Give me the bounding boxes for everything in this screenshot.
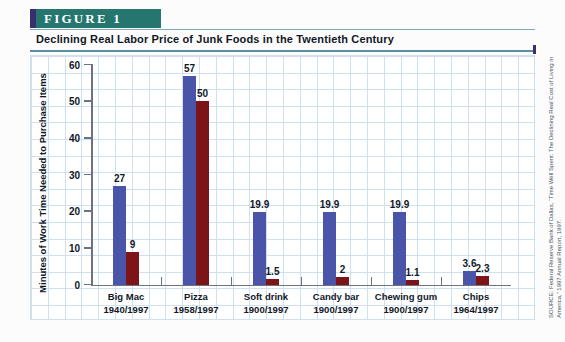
x-axis-category-years: 1900/1997 — [244, 304, 289, 317]
plot-area: 0102030405060279Big Mac1940/19975750Pizz… — [91, 64, 511, 286]
y-axis-tick-label: 20 — [69, 206, 80, 217]
y-axis-tick — [84, 137, 91, 139]
x-axis-category-name: Big Mac — [104, 291, 149, 304]
bar-value-label: 2 — [340, 264, 346, 275]
bar-value-label: 1.1 — [406, 267, 420, 278]
bar-group: 19.92 — [301, 212, 371, 285]
y-axis-tick — [84, 284, 91, 286]
x-axis-category-name: Candy bar — [313, 291, 359, 304]
bar-value-label: 19.9 — [320, 199, 339, 210]
bar-earlier: 19.9 — [253, 212, 266, 285]
bar-group: 279 — [91, 186, 161, 285]
bar-current: 50 — [196, 101, 209, 284]
x-axis-group-label: Candy bar1900/1997 — [313, 291, 359, 316]
title-rule-endcap — [533, 45, 536, 54]
bar-earlier: 19.9 — [393, 212, 406, 285]
bar-value-label: 57 — [184, 63, 195, 74]
y-axis-tick-label: 60 — [69, 59, 80, 70]
y-axis-tick-label: 0 — [74, 279, 80, 290]
y-axis-tick — [84, 64, 91, 66]
x-axis-category-years: 1900/1997 — [313, 304, 359, 317]
bar-group: 19.91.1 — [371, 212, 441, 285]
bar-value-label: 50 — [197, 88, 208, 99]
y-axis-tick-label: 10 — [69, 242, 80, 253]
x-axis-category-years: 1958/1997 — [174, 304, 219, 317]
chart-panel: Minutes of Work Time Needed to Purchase … — [30, 55, 535, 320]
x-axis-group-label: Pizza1958/1997 — [174, 291, 219, 316]
y-axis-tick — [84, 174, 91, 176]
y-axis-tick-label: 50 — [69, 96, 80, 107]
bar-value-label: 2.3 — [476, 263, 490, 274]
x-axis-group-label: Big Mac1940/1997 — [104, 291, 149, 316]
banner-accent-bar — [30, 9, 36, 28]
y-axis-tick-label: 40 — [69, 132, 80, 143]
bar-group: 5750 — [161, 76, 231, 285]
bar-value-label: 9 — [130, 239, 136, 250]
bar-current: 1.5 — [266, 279, 279, 285]
bar-value-label: 27 — [114, 173, 125, 184]
bar-current: 9 — [126, 252, 139, 285]
figure-title: Declining Real Labor Price of Junk Foods… — [36, 33, 394, 45]
figure-banner: FIGURE 1 — [30, 9, 161, 28]
bar-value-label: 1.5 — [266, 266, 280, 277]
figure-page: FIGURE 1 Declining Real Labor Price of J… — [0, 0, 565, 342]
x-axis-line — [91, 285, 511, 287]
bar-value-label: 3.6 — [463, 258, 477, 269]
x-axis-category-years: 1964/1997 — [454, 304, 499, 317]
bar-earlier: 3.6 — [463, 271, 476, 284]
y-axis-tick-label: 30 — [69, 169, 80, 180]
y-axis-tick — [84, 247, 91, 249]
y-axis-tick — [84, 210, 91, 212]
x-axis-category-years: 1940/1997 — [104, 304, 149, 317]
x-axis-group-label: Chips1964/1997 — [454, 291, 499, 316]
x-axis-category-years: 1900/1997 — [375, 304, 437, 317]
bar-group: 3.62.3 — [441, 271, 511, 284]
bar-group: 19.91.5 — [231, 212, 301, 285]
y-axis-tick — [84, 100, 91, 102]
title-rule-top — [30, 29, 535, 30]
bar-current: 1.1 — [406, 280, 419, 284]
bar-earlier: 19.9 — [323, 212, 336, 285]
bar-value-label: 19.9 — [390, 199, 409, 210]
x-axis-category-name: Pizza — [174, 291, 219, 304]
bar-current: 2 — [336, 277, 349, 284]
title-rule-bottom — [30, 50, 535, 52]
x-axis-category-name: Chewing gum — [375, 291, 437, 304]
bar-current: 2.3 — [476, 276, 489, 284]
bar-earlier: 57 — [183, 76, 196, 285]
source-note: SOURCE: Federal Reserve Bank of Dallas, … — [548, 56, 563, 318]
bar-value-label: 19.9 — [250, 199, 269, 210]
x-axis-category-name: Soft drink — [244, 291, 289, 304]
figure-number-label: FIGURE 1 — [44, 11, 122, 27]
x-axis-group-label: Soft drink1900/1997 — [244, 291, 289, 316]
y-axis-title: Minutes of Work Time Needed to Purchase … — [37, 67, 51, 299]
bar-earlier: 27 — [113, 186, 126, 285]
x-axis-category-name: Chips — [454, 291, 499, 304]
x-axis-group-label: Chewing gum1900/1997 — [375, 291, 437, 316]
